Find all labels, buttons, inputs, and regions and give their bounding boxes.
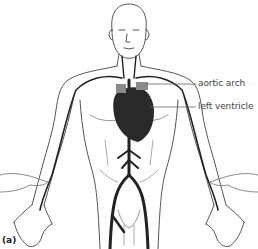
examiner-right-hand xyxy=(210,174,258,192)
circulatory-body-illustration xyxy=(0,0,258,249)
label-aortic-arch: aortic arch xyxy=(198,78,245,88)
right-iliac xyxy=(129,175,148,249)
head-outline xyxy=(112,4,147,58)
left-hand xyxy=(14,205,52,247)
left-iliac xyxy=(110,175,129,249)
label-left-ventricle: left ventricle xyxy=(198,101,253,111)
panel-label: (a) xyxy=(2,235,16,245)
right-hand xyxy=(206,205,244,247)
anatomy-figure xyxy=(0,0,258,249)
examiner-left-hand xyxy=(0,174,48,192)
heart-icon xyxy=(113,87,154,142)
